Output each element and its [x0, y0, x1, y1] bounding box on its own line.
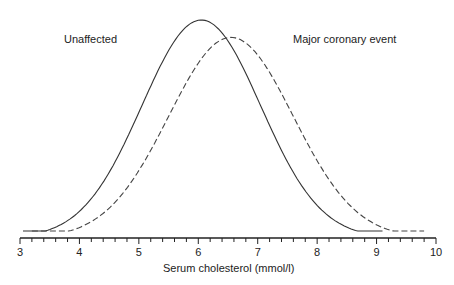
major-coronary-event-curve: [32, 37, 424, 231]
x-tick-label: 4: [76, 246, 82, 258]
x-tick-label: 8: [314, 246, 320, 258]
x-tick-label: 5: [136, 246, 142, 258]
unaffected-label: Unaffected: [64, 33, 117, 45]
x-tick-label: 3: [17, 246, 23, 258]
x-axis: [20, 238, 436, 244]
x-axis-title: Serum cholesterol (mmol/l): [163, 262, 294, 274]
unaffected-curve: [23, 20, 383, 231]
major-coronary-event-label: Major coronary event: [293, 33, 396, 45]
x-tick-labels: 345678910: [17, 246, 442, 258]
x-tick-label: 6: [195, 246, 201, 258]
x-tick-label: 10: [430, 246, 442, 258]
x-tick-label: 9: [374, 246, 380, 258]
x-tick-label: 7: [255, 246, 261, 258]
